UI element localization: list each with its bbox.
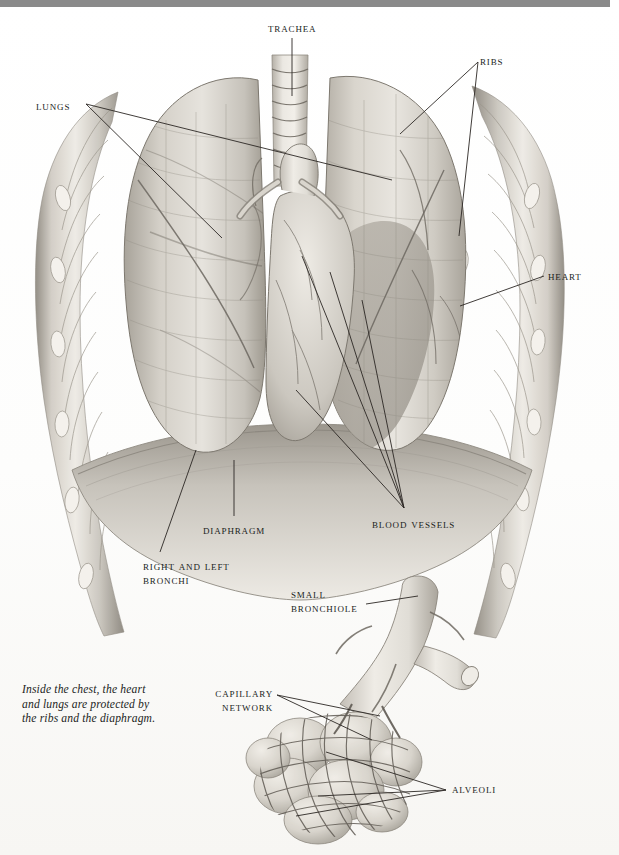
label-small-bronchiole: Small bronchiole (291, 588, 358, 615)
label-capillary-network: Capillary network (173, 687, 273, 714)
label-right-and-left-bronchi: Right and left bronchi (143, 560, 230, 587)
small-bronchiole (336, 576, 482, 722)
label-ribs: Ribs (480, 55, 503, 69)
label-alveoli: Alveoli (452, 783, 496, 797)
diaphragm (72, 424, 532, 600)
label-heart: Heart (548, 270, 582, 284)
figure-caption: Inside the chest, the heart and lungs ar… (22, 683, 187, 727)
right-lung (124, 78, 266, 453)
label-blood-vessels: Blood vessels (372, 518, 455, 532)
leader-ribs-1 (400, 62, 478, 134)
ribs-left-group (35, 92, 124, 636)
label-lungs: Lungs (36, 100, 70, 114)
anatomical-plate-page: Trachea Ribs Lungs Heart Diaphragm Blood… (0, 0, 619, 855)
label-trachea: Trachea (268, 22, 316, 36)
leader-ribs-2 (459, 62, 478, 236)
label-diaphragm: Diaphragm (203, 524, 265, 538)
